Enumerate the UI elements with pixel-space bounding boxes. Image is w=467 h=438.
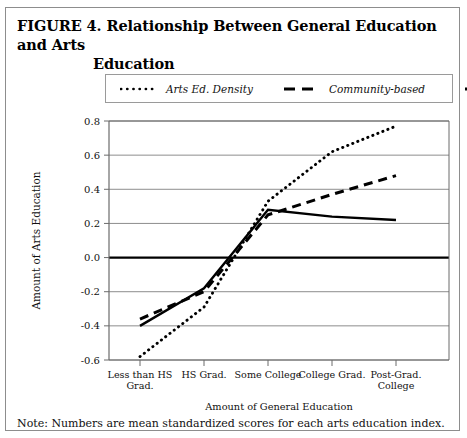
svg-text:0.0: 0.0 bbox=[84, 252, 100, 263]
chart-series bbox=[140, 126, 396, 356]
svg-text:-0.4: -0.4 bbox=[81, 320, 100, 331]
svg-text:Post-Grad.: Post-Grad. bbox=[370, 369, 421, 380]
svg-text:0.8: 0.8 bbox=[84, 116, 100, 127]
svg-text:Some College: Some College bbox=[235, 369, 302, 380]
svg-text:-0.2: -0.2 bbox=[81, 286, 100, 297]
y-axis-title: Amount of Arts Education bbox=[30, 171, 42, 310]
x-tick-marks bbox=[140, 360, 396, 366]
svg-text:-0.6: -0.6 bbox=[81, 355, 100, 366]
figure-card: FIGURE 4. Relationship Between General E… bbox=[5, 7, 460, 431]
y-tick-labels: 0.80.60.40.20.0-0.2-0.4-0.6 bbox=[81, 116, 100, 366]
svg-text:College Grad.: College Grad. bbox=[299, 369, 366, 380]
chart-axis-lines bbox=[109, 121, 449, 360]
chart-plot-area: 0.80.60.40.20.0-0.2-0.4-0.6 Less than HS… bbox=[6, 8, 461, 432]
figure-note: Note: Numbers are mean standardized scor… bbox=[17, 417, 455, 431]
chart-svg: 0.80.60.40.20.0-0.2-0.4-0.6 Less than HS… bbox=[6, 8, 461, 432]
chart-gridlines bbox=[104, 121, 449, 360]
svg-text:HS Grad.: HS Grad. bbox=[181, 369, 226, 380]
svg-text:Grad.: Grad. bbox=[126, 380, 153, 391]
legend-entry-school-based: School-based bbox=[461, 83, 467, 95]
svg-text:College: College bbox=[378, 380, 415, 391]
svg-text:0.4: 0.4 bbox=[84, 184, 100, 195]
svg-text:0.6: 0.6 bbox=[84, 150, 100, 161]
svg-text:0.2: 0.2 bbox=[84, 218, 100, 229]
x-tick-labels: Less than HSGrad.HS Grad.Some CollegeCol… bbox=[108, 369, 422, 391]
svg-text:Less than HS: Less than HS bbox=[108, 369, 173, 380]
legend-swatch-solid-icon bbox=[461, 84, 467, 94]
x-axis-title: Amount of General Education bbox=[204, 401, 353, 412]
